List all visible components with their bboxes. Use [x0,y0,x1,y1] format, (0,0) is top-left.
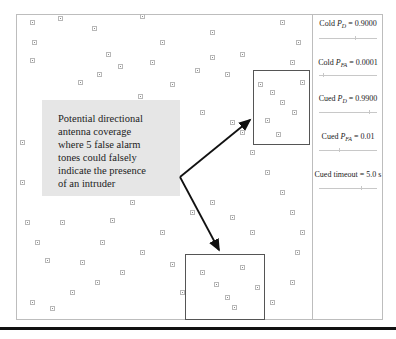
parameter-panel: Cold PD = 0.9000 Cold PFA = 0.0001 Cued … [312,14,383,320]
sensor-marker [20,180,25,185]
sensor-marker [195,68,200,73]
sensor-marker [240,130,245,135]
sensor-marker [210,200,215,205]
sensor-marker [130,200,135,205]
callout-text: Potential directional antenna coverage w… [58,112,178,190]
sensor-marker [296,40,301,45]
sensor-marker [92,26,97,31]
sensor-marker [160,230,165,235]
sensor-marker [120,270,125,275]
sensor-marker [100,240,105,245]
sensor-marker [118,64,123,69]
sensor-marker [230,215,235,220]
sensor-marker [32,40,37,45]
callout-line: indicate the presence [58,164,178,177]
sensor-marker [25,220,30,225]
sensor-marker [30,20,35,25]
sensor-marker [20,140,25,145]
sensor-marker [150,60,155,65]
sensor-marker [295,250,300,255]
sensor-marker [265,170,270,175]
sensor-marker [50,306,55,311]
sensor-marker [138,94,143,99]
sensor-marker [240,52,245,57]
sensor-marker [30,300,35,305]
sensor-marker [290,280,295,285]
slider-cued-pfa[interactable] [319,150,377,151]
sensor-marker [97,72,102,77]
sensor-marker [60,220,65,225]
sensor-marker [70,290,75,295]
sensor-marker [170,82,175,87]
sensor-marker [200,110,205,115]
sensor-marker [280,190,285,195]
sensor-marker [210,55,215,60]
sensor-marker [140,14,145,19]
sensor-marker [35,240,40,245]
sensor-marker [30,58,35,63]
sensor-marker [230,120,235,125]
param-cued-pfa: Cued PFA = 0.01 [313,132,383,142]
sensor-marker [160,40,165,45]
upper-coverage-zone [253,70,310,145]
sensor-marker [80,260,85,265]
sensor-marker [290,60,295,65]
sensor-marker [300,230,305,235]
sensor-marker [225,72,230,77]
sensor-marker [280,20,285,25]
sensor-marker [106,52,111,57]
sensor-marker [250,150,255,155]
sensor-marker [45,258,50,263]
param-cold-pd: Cold PD = 0.9000 [313,19,383,29]
param-cued-pd: Cued PD = 0.9900 [313,94,383,104]
callout-line: tones could falsely [58,151,178,164]
slider-cued-pd[interactable] [319,112,377,113]
sensor-marker [190,210,195,215]
sensor-marker [78,80,83,85]
callout-line: Potential directional [58,112,178,125]
slider-cold-pfa[interactable] [319,75,377,76]
callout-line: of an intruder [58,177,178,190]
sensor-marker [140,250,145,255]
sensor-marker [58,16,63,21]
sensor-marker [95,280,100,285]
sensor-marker [210,30,215,35]
sensor-marker [270,300,275,305]
slider-cued-timeout[interactable] [319,188,377,189]
param-cued-timeout: Cued timeout = 5.0 s [313,170,383,179]
sensor-marker [290,210,295,215]
sensor-marker [250,230,255,235]
bottom-rule [0,327,396,330]
slider-cold-pd[interactable] [319,38,377,39]
lower-coverage-zone [185,254,265,320]
callout-line: antenna coverage [58,125,178,138]
callout-line: where 5 false alarm [58,138,178,151]
sensor-marker [170,262,175,267]
sensor-marker [110,218,115,223]
param-cold-pfa: Cold PFA = 0.0001 [313,58,383,68]
